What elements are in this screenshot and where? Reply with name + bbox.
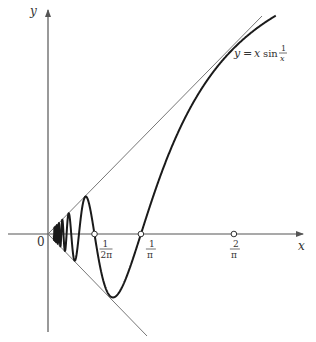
- svg-text:sin: sin: [263, 48, 278, 59]
- tick-marker: [92, 231, 98, 237]
- tick-label-denominator: 2π: [101, 250, 113, 260]
- tick-marker: [138, 231, 144, 237]
- tick-label-numerator: 1: [149, 239, 155, 249]
- x-axis-label: x: [298, 239, 305, 253]
- tick-marker: [231, 231, 237, 237]
- function-graph: 12π1π2π y x 0 y = x sin 1 x: [0, 0, 316, 342]
- svg-text:=: =: [243, 47, 252, 60]
- svg-text:x: x: [254, 47, 261, 60]
- tick-label-denominator: π: [231, 250, 237, 260]
- function-label: y = x sin 1 x: [233, 44, 287, 63]
- svg-text:1: 1: [281, 44, 286, 53]
- svg-text:x: x: [280, 54, 285, 63]
- y-axis-label: y: [29, 4, 37, 18]
- tick-label-numerator: 2: [233, 239, 239, 249]
- tick-label-denominator: π: [147, 250, 153, 260]
- envelope-line-upper: [48, 16, 262, 234]
- tick-label-numerator: 1: [103, 239, 109, 249]
- origin-label: 0: [37, 235, 45, 249]
- tick-markers: 12π1π2π: [92, 231, 240, 260]
- svg-text:y: y: [233, 47, 241, 60]
